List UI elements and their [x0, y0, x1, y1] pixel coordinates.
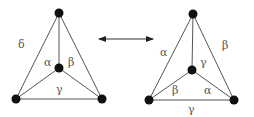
- diagram-canvas: δ α β γ α β γ β α γ: [0, 0, 254, 116]
- vertex-bottom-left: [145, 96, 154, 105]
- label-inner-bottom-right: α: [204, 84, 212, 97]
- left-graph: δ α β γ: [12, 9, 107, 104]
- edge: [59, 13, 102, 99]
- label-inner-right: β: [68, 56, 74, 69]
- vertex-bottom-right: [230, 96, 239, 105]
- vertex-center: [55, 64, 64, 73]
- edge: [149, 70, 192, 100]
- label-inner-top: γ: [200, 56, 207, 69]
- vertex-center: [188, 66, 197, 75]
- label-outer-left: δ: [18, 38, 25, 51]
- edge: [16, 68, 59, 99]
- vertex-top: [55, 9, 64, 18]
- edge: [192, 70, 234, 100]
- label-inner-left: α: [44, 56, 52, 69]
- edge: [192, 14, 193, 70]
- label-outer-right: β: [222, 39, 228, 52]
- edge: [16, 13, 59, 99]
- label-outer-left: α: [160, 46, 168, 59]
- label-outer-bottom: γ: [188, 103, 195, 116]
- vertex-top: [189, 10, 198, 19]
- vertex-bottom-left: [12, 95, 21, 104]
- vertex-bottom-right: [98, 95, 107, 104]
- label-inner-bottom-left: β: [172, 84, 178, 97]
- label-inner-bottom: γ: [56, 83, 63, 96]
- edge: [149, 14, 193, 100]
- right-graph: α β γ β α γ: [145, 10, 239, 117]
- edge: [59, 68, 102, 99]
